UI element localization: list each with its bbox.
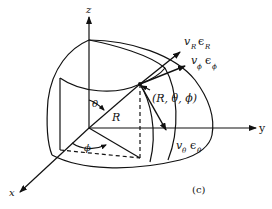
- svg-text:ϵ: ϵ: [205, 54, 211, 67]
- meridian-arc: [165, 68, 176, 160]
- svg-text:ϕ: ϕ: [197, 63, 202, 71]
- svg-text:ϵ: ϵ: [198, 35, 204, 48]
- point-p: [138, 82, 142, 86]
- radius-label: R: [111, 111, 120, 124]
- spherical-coordinates-figure: z y x R θ ϕ (R, θ, ϕ) v R ϵ R v ϕ ϵ ϕ v …: [0, 0, 272, 209]
- svg-text:R: R: [204, 43, 211, 51]
- phi-label: ϕ: [84, 142, 91, 153]
- svg-text:ϵ: ϵ: [190, 139, 196, 152]
- azimuthal-vector-label: v ϕ ϵ ϕ: [191, 54, 217, 71]
- svg-text:θ: θ: [182, 147, 187, 155]
- point-label: (R, θ, ϕ): [152, 92, 197, 105]
- sphere-outer-left-arc: [47, 40, 89, 155]
- polar-vector-label: v θ ϵ θ: [176, 139, 202, 155]
- x-axis: [20, 128, 89, 192]
- x-axis-label: x: [9, 187, 15, 198]
- panel-label: (c): [192, 184, 206, 195]
- theta-label: θ: [92, 98, 98, 109]
- vector-azimuthal: [140, 66, 185, 84]
- y-axis-label: y: [258, 122, 266, 135]
- svg-text:R: R: [190, 43, 197, 51]
- svg-text:ϕ: ϕ: [212, 63, 217, 71]
- svg-text:v: v: [184, 35, 191, 48]
- radial-vector-label: v R ϵ R: [184, 35, 211, 51]
- z-axis-label: z: [85, 4, 92, 15]
